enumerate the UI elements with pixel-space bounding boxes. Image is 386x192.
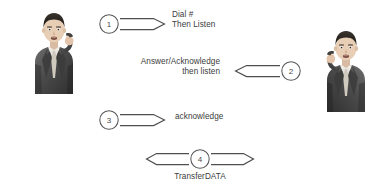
step-2-label: Answer/Acknowledgethen listen (108, 57, 220, 78)
step-number-3: 3 (107, 116, 112, 125)
step-1-line-1: Dial # (172, 10, 193, 19)
step-2-group: 2 (228, 58, 302, 88)
step-4-line-1: TransferDATA (174, 172, 225, 181)
step-1-group: 1 (98, 11, 170, 41)
step-number-4: 4 (198, 155, 203, 164)
step-number-2: 2 (289, 67, 294, 76)
step-4-label: TransferDATA (145, 172, 255, 182)
man-on-phone-left (22, 6, 86, 94)
step-2-line-1: Answer/Acknowledge (141, 57, 220, 66)
step-3-line-1: acknowledge (175, 112, 223, 121)
step-number-1: 1 (107, 20, 112, 29)
step-1-line-2: Then Listen (172, 20, 215, 29)
step-3-group: 3 (98, 107, 170, 137)
man-on-phone-right (314, 22, 378, 114)
step-1-label: Dial #Then Listen (172, 10, 215, 31)
step-2-line-2: then listen (182, 67, 220, 76)
step-3-label: acknowledge (175, 112, 223, 122)
diagram-canvas: 1 Dial #Then Listen 2 Answer/Acknowledge… (0, 0, 386, 192)
